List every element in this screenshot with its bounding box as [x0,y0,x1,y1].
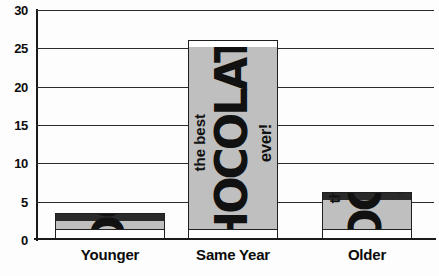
x-tick-label-younger: Younger [81,246,139,263]
y-tick-label-0: 0 [21,234,28,247]
art-line-chocolate: CHOCOLATE [344,193,388,230]
bar-younger: the best CHOCOLATE ever! [55,213,165,239]
bar-same-year: the best CHOCOLATE ever! [188,40,278,239]
y-tick-label-20: 20 [14,80,28,93]
y-tick-label-10: 10 [14,157,28,170]
bar-older: the best CHOCOLATE ever! [322,192,412,239]
y-axis: 0 5 10 15 20 25 30 [0,0,34,276]
art-line-ever: ever! [257,124,274,162]
x-axis: Younger Same Year Older [36,246,434,272]
bar-younger-foot [56,229,164,238]
bar-same-year-artwork: the best CHOCOLATE ever! [189,47,277,230]
art-line-chocolate: CHOCOLATE [87,214,131,230]
art-line-the-best: the best [192,114,207,172]
chocolate-wrapper-art: the best CHOCOLATE ever! [323,193,411,230]
bar-chart: 0 5 10 15 20 25 30 the best CHOCOLATE ev… [0,0,439,276]
art-line-chocolate: CHOCOLATE [210,47,254,230]
bar-older-artwork: the best CHOCOLATE ever! [323,193,411,230]
x-tick-label-same-year: Same Year [196,246,270,263]
bar-younger-artwork: the best CHOCOLATE ever! [56,214,164,230]
x-tick-label-older: Older [348,246,386,263]
bar-same-year-foot [189,229,277,238]
bar-older-foot [323,229,411,238]
art-line-ever: ever! [390,193,407,194]
plot-area: the best CHOCOLATE ever! the best CHOCOL… [36,10,434,240]
y-tick-label-5: 5 [21,195,28,208]
y-tick-label-25: 25 [14,42,28,55]
gridline-30 [36,10,434,11]
chocolate-wrapper-art: the best CHOCOLATE ever! [189,47,277,230]
y-tick-label-30: 30 [14,4,28,17]
chocolate-wrapper-art: the best CHOCOLATE ever! [56,214,164,230]
y-tick-label-15: 15 [14,119,28,132]
